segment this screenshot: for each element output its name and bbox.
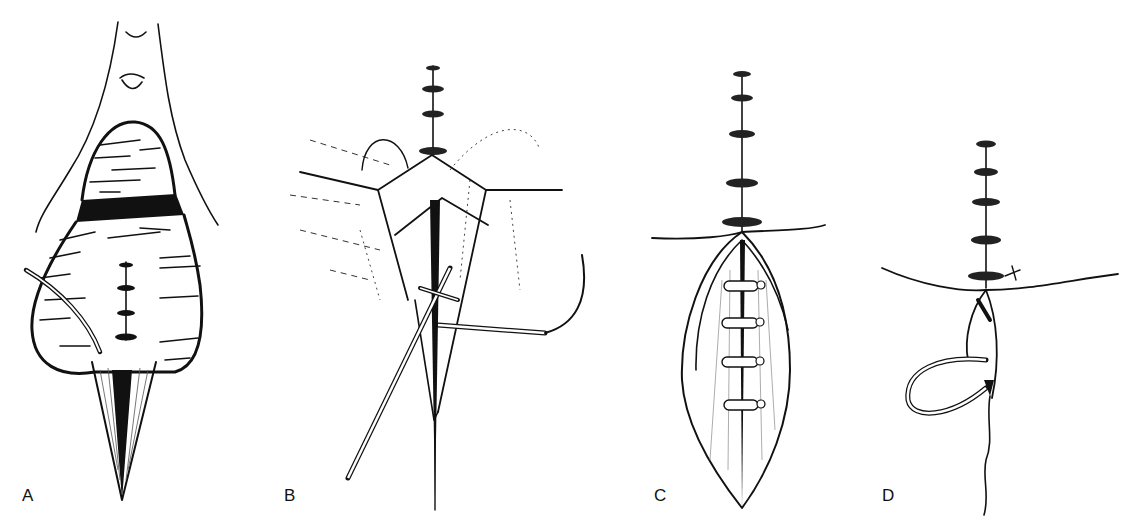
panel-d: D bbox=[860, 0, 1135, 531]
panel-d-drawing bbox=[860, 0, 1135, 531]
panel-label-d: D bbox=[882, 486, 894, 506]
panel-a: A bbox=[0, 0, 260, 531]
panel-label-a: A bbox=[22, 486, 33, 506]
panel-c: C bbox=[640, 0, 860, 531]
panel-b-drawing bbox=[270, 0, 610, 531]
panel-c-drawing bbox=[640, 0, 860, 531]
surgical-illustration-figure: A bbox=[0, 0, 1135, 531]
panel-label-b: B bbox=[284, 486, 295, 506]
panel-b: B bbox=[270, 0, 610, 531]
panel-a-drawing bbox=[0, 0, 260, 531]
panel-label-c: C bbox=[654, 486, 666, 506]
